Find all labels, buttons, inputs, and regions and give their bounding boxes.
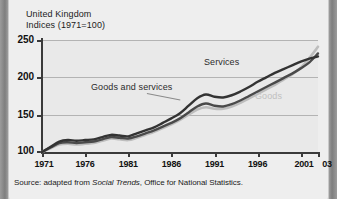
chart-title: United Kingdom Indices (1971=100) [26,9,105,31]
page-gutter-right [328,0,337,199]
x-tick-2003 [318,152,320,157]
source-prefix: Source: adapted from [14,178,92,187]
x-tick-label-1991: 1991 [205,159,224,169]
x-tick-1976 [85,152,87,157]
source-publication: Social Trends [92,178,140,187]
x-tick-1986 [171,152,173,157]
x-tick-label-03: 03 [322,159,332,169]
y-tick-label-150: 150 [18,109,34,120]
x-tick-label-1981: 1981 [119,159,138,169]
figure-root: United Kingdom Indices (1971=100) 250 20… [0,0,337,199]
source-suffix: , Office for National Statistics. [140,178,243,187]
chart-title-line2: Indices (1971=100) [26,20,105,30]
x-tick-2001 [301,152,303,157]
x-tick-1991b [215,152,217,157]
chart-title-line1: United Kingdom [26,9,91,19]
annotation-goods: Goods [255,91,282,101]
x-tick-label-1971: 1971 [34,159,53,169]
source-note: Source: adapted from Social Trends, Offi… [14,178,243,187]
annotation-services: Services [204,57,239,67]
y-tick-label-100: 100 [18,145,34,156]
plot-area: 250 200 150 100 1971 1976 1981 1986 1991… [42,40,318,152]
x-tick-label-1976: 1976 [75,159,94,169]
x-tick-1981 [128,152,130,157]
line-services [42,56,318,152]
x-tick-label-1986: 1986 [162,159,181,169]
line-goods-and-services [42,53,318,152]
x-tick-label-1996: 1996 [248,159,267,169]
x-tick-1996 [258,152,260,157]
y-tick-label-250: 250 [18,34,34,45]
x-tick-label-2001: 2001 [294,159,313,169]
annotation-goods-and-services: Goods and services [91,82,172,92]
x-axis [41,152,319,154]
y-tick-label-200: 200 [18,71,34,82]
